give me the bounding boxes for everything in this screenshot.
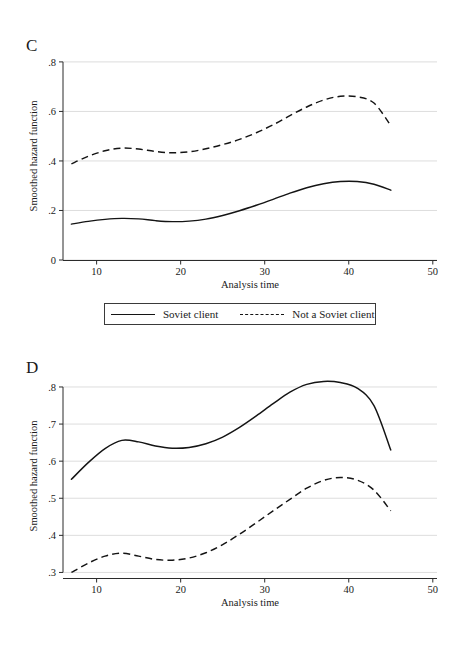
x-tick-label: 20 [175,266,186,277]
series-line-dashed [71,96,390,164]
series-line-dashed [71,477,390,572]
y-tick-label: 0 [51,255,56,266]
panel-c-plot: 0.2.4.6.81020304050Analysis timeSmoothed… [0,0,460,300]
x-tick-label: 30 [259,266,270,277]
legend-label-not-soviet-client: Not a Soviet client [292,308,374,321]
x-tick-label: 10 [91,584,102,595]
x-tick-label: 50 [428,584,439,595]
y-tick-label: .2 [48,205,56,216]
x-axis-title: Analysis time [221,597,279,608]
x-tick-label: 40 [344,584,355,595]
legend-entry-not-soviet-client: Not a Soviet client [240,308,374,321]
legend-key-dashed-icon [240,308,284,320]
series-line-solid [71,381,390,479]
x-tick-label: 30 [259,584,270,595]
y-tick-label: .6 [48,106,56,117]
x-axis-title: Analysis time [221,279,279,290]
y-tick-label: .8 [48,382,56,393]
y-axis-title: Smoothed hazard function [28,420,39,532]
y-axis-title: Smoothed hazard function [28,100,39,212]
y-tick-label: .5 [48,493,56,504]
x-tick-label: 20 [175,584,186,595]
x-tick-label: 50 [428,266,439,277]
y-tick-label: .3 [48,567,56,578]
x-tick-label: 40 [344,266,355,277]
y-tick-label: .4 [48,156,57,167]
y-tick-label: .4 [48,530,57,541]
legend-entry-soviet-client: Soviet client [111,308,218,321]
legend-key-solid-icon [111,308,155,320]
x-tick-label: 10 [91,266,102,277]
panel-d-plot: .3.4.5.6.7.81020304050Analysis timeSmoot… [0,322,460,622]
legend-label-soviet-client: Soviet client [163,308,218,321]
y-tick-label: .6 [48,456,56,467]
y-tick-label: .7 [48,419,56,430]
panel-c: C 0.2.4.6.81020304050Analysis timeSmooth… [0,0,460,330]
panel-d: D .3.4.5.6.7.81020304050Analysis timeSmo… [0,322,460,652]
series-line-solid [71,181,390,224]
y-tick-label: .8 [48,57,56,68]
